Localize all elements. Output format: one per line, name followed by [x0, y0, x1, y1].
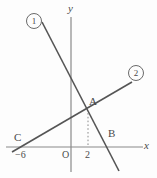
- point-label-c: C: [14, 132, 21, 143]
- tick-label-two: 2: [85, 150, 90, 160]
- geometry-figure: 1 2 y x O −6 2 A B C: [0, 0, 157, 178]
- tick-label-neg-six: −6: [15, 150, 26, 160]
- line-one-label: 1: [26, 13, 42, 29]
- x-axis-label: x: [144, 140, 149, 151]
- point-label-a: A: [89, 96, 97, 107]
- line-two-stroke: [12, 82, 132, 152]
- y-axis-label: y: [68, 3, 73, 14]
- point-label-b: B: [108, 128, 115, 139]
- line-two-label: 2: [128, 65, 144, 81]
- origin-label: O: [62, 150, 69, 160]
